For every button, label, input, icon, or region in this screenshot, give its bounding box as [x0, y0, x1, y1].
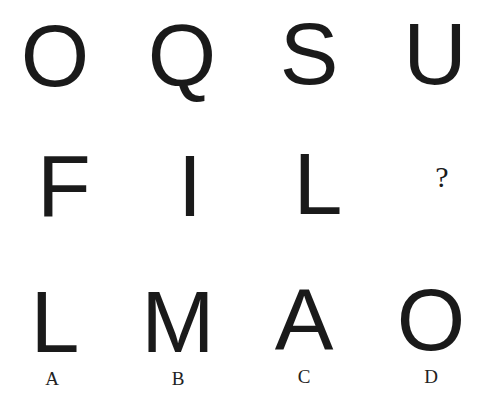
row2-letter-2: I	[145, 142, 235, 230]
option-d-letter[interactable]: O	[386, 276, 476, 364]
question-mark: ?	[422, 162, 462, 192]
row2-letter-1: F	[19, 142, 109, 230]
row1-letter-4: U	[390, 10, 480, 98]
option-c-label: C	[289, 367, 319, 386]
option-c-letter[interactable]: A	[259, 276, 349, 364]
option-d-label: D	[416, 367, 446, 386]
row1-letter-3: S	[264, 10, 354, 98]
option-a-letter[interactable]: L	[10, 278, 100, 366]
row1-letter-2: Q	[137, 12, 227, 100]
option-b-label: B	[163, 369, 193, 388]
row1-letter-1: O	[10, 12, 100, 100]
row2-letter-3: L	[273, 140, 363, 228]
option-a-label: A	[37, 369, 67, 388]
option-b-letter[interactable]: M	[133, 278, 223, 366]
